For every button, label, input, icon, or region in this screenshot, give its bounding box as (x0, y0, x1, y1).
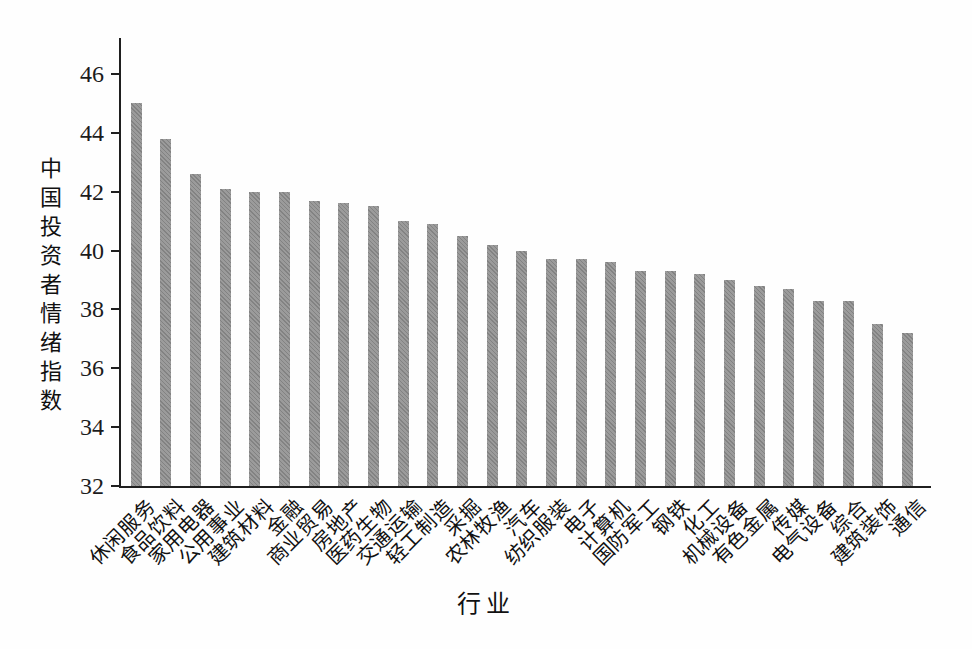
bar (457, 236, 468, 486)
bar (309, 201, 320, 486)
y-tick-label: 32 (44, 474, 104, 498)
y-axis-title-char: 中 (40, 158, 62, 180)
y-tick (111, 426, 120, 428)
y-tick-label: 34 (44, 415, 104, 439)
bar (872, 324, 883, 486)
x-axis-title: 行业 (0, 584, 972, 619)
bar (427, 224, 438, 486)
y-tick-label: 46 (44, 62, 104, 86)
y-tick (111, 191, 120, 193)
investor-sentiment-bar-chart: 3234363840424446 休闲服务食品饮料家用电器公用事业建筑材料金融商… (0, 0, 972, 649)
y-tick (111, 250, 120, 252)
bar (338, 203, 349, 486)
y-axis-title-char: 者 (40, 274, 62, 296)
y-tick (111, 485, 120, 487)
bar (368, 206, 379, 486)
bar (665, 271, 676, 486)
bar (131, 103, 142, 486)
bar (694, 274, 705, 486)
bar (754, 286, 765, 486)
bar (516, 251, 527, 486)
bar (487, 245, 498, 486)
bar (279, 192, 290, 486)
bar (813, 301, 824, 486)
bar (220, 189, 231, 486)
y-axis-title-char: 数 (40, 390, 62, 412)
y-tick (111, 367, 120, 369)
bar (160, 139, 171, 486)
y-tick (111, 308, 120, 310)
y-axis-title: 中国投资者情绪指数 (40, 158, 62, 412)
bar (902, 333, 913, 486)
x-axis-line (119, 486, 931, 488)
y-tick-label: 44 (44, 121, 104, 145)
bar (546, 259, 557, 486)
bar (605, 262, 616, 486)
y-axis-title-char: 资 (40, 245, 62, 267)
bar (724, 280, 735, 486)
y-axis-title-char: 指 (40, 361, 62, 383)
bar (249, 192, 260, 486)
y-axis-line (119, 38, 121, 488)
y-axis-title-char: 绪 (40, 332, 62, 354)
y-axis-title-char: 投 (40, 216, 62, 238)
y-axis-title-char: 国 (40, 187, 62, 209)
bar (843, 301, 854, 486)
bar (635, 271, 646, 486)
bar (398, 221, 409, 486)
bar (190, 174, 201, 486)
y-axis-title-char: 情 (40, 303, 62, 325)
y-tick (111, 73, 120, 75)
bar (576, 259, 587, 486)
y-tick (111, 132, 120, 134)
bar (783, 289, 794, 486)
